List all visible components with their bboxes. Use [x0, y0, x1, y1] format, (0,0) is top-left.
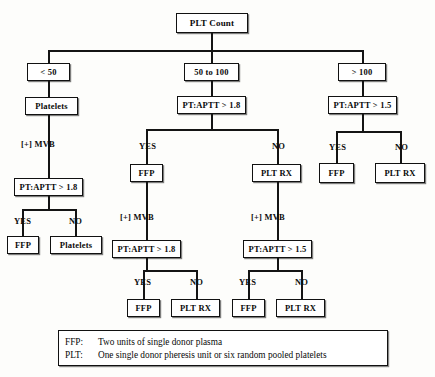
edge-label-left-yes: YES: [14, 217, 31, 226]
connector-mid-test-down: [211, 114, 213, 129]
connector-mid-no-subtest-down: [277, 258, 279, 270]
edge-label-left-mvb: [+] MVB: [21, 140, 55, 149]
node-mid-test-pt-aptt[interactable]: PT:APTT > 1.8: [177, 96, 246, 114]
edge-label-mid-no-sub-mvb: [+] MVB: [251, 213, 285, 222]
connector-root-bus: [48, 50, 363, 52]
legend-box: FFP: Two units of single donor plasma PL…: [58, 330, 388, 366]
edge-label-mid-no: NO: [272, 142, 285, 151]
connector-mid-test-bus: [146, 129, 277, 131]
node-right-yes-outcome-ffp[interactable]: FFP: [319, 163, 354, 183]
legend-key-plt: PLT:: [65, 349, 98, 362]
legend-text-ffp: Two units of single donor plasma: [98, 336, 222, 349]
node-right-test-pt-aptt[interactable]: PT:APTT > 1.5: [328, 96, 397, 114]
connector-mid-no-subtest-bus: [248, 270, 301, 272]
legend-key-ffp: FFP:: [65, 336, 98, 349]
connector-left-test-bus: [22, 209, 75, 211]
connector-mid-ffp-to-subtest: [146, 182, 148, 240]
legend-row-ffp: FFP: Two units of single donor plasma: [65, 336, 380, 349]
connector-bus-to-middle: [211, 50, 213, 63]
node-left-test-pt-aptt[interactable]: PT:APTT > 1.8: [14, 178, 83, 196]
connector-bus-to-left: [48, 50, 50, 63]
edge-label-left-no: NO: [69, 217, 82, 226]
connector-right-test-down: [362, 114, 364, 131]
edge-label-mid-yes-sub-mvb: [+] MVB: [120, 213, 154, 222]
legend-row-plt: PLT: One single donor pheresis unit or s…: [65, 349, 380, 362]
connector-right-test-bus: [336, 131, 400, 133]
node-mid-no-sub-yes-outcome-ffp[interactable]: FFP: [232, 299, 265, 317]
node-range-greater-than-100[interactable]: > 100: [338, 63, 386, 81]
node-mid-yes-sub-test[interactable]: PT:APTT > 1.8: [112, 240, 181, 258]
connector-left-test-down: [48, 196, 50, 209]
connector-mid-pltrx-to-subtest: [277, 182, 279, 240]
node-range-less-than-50[interactable]: < 50: [27, 63, 70, 81]
node-left-treatment-platelets[interactable]: Platelets: [25, 97, 78, 115]
connector-mid-range-to-test: [211, 81, 213, 96]
connector-right-100-to-test: [362, 81, 364, 96]
edge-label-mid-yes: YES: [139, 142, 156, 151]
node-mid-no-sub-no-outcome-plt-rx[interactable]: PLT RX: [276, 299, 325, 317]
edge-label-mid-no-sub-no: NO: [295, 278, 308, 287]
connector-root-down: [211, 33, 213, 50]
edge-label-right-no: NO: [395, 143, 408, 152]
node-right-no-outcome-plt-rx[interactable]: PLT RX: [375, 163, 425, 183]
decision-tree-diagram: PLT Count < 50 50 to 100 > 100 Platelets…: [0, 0, 435, 377]
connector-mid-subtest-bus: [143, 270, 196, 272]
node-mid-yes-sub-no-outcome-plt-rx[interactable]: PLT RX: [171, 299, 220, 317]
connector-bus-to-right: [362, 50, 364, 63]
connector-mid-subtest-down: [146, 258, 148, 270]
edge-label-right-yes: YES: [329, 143, 346, 152]
connector-left-50-to-platelets: [48, 81, 50, 97]
node-root-plt-count[interactable]: PLT Count: [176, 13, 248, 33]
legend-text-plt: One single donor pheresis unit or six ra…: [98, 349, 327, 362]
node-mid-no-sub-test[interactable]: PT:APTT > 1.5: [243, 240, 312, 258]
edge-label-mid-yes-sub-no: NO: [190, 278, 203, 287]
node-mid-yes-sub-yes-outcome-ffp[interactable]: FFP: [127, 299, 160, 317]
node-left-no-outcome-platelets[interactable]: Platelets: [50, 236, 102, 254]
node-mid-yes-outcome-ffp[interactable]: FFP: [130, 164, 163, 182]
node-mid-no-outcome-plt-rx[interactable]: PLT RX: [252, 164, 301, 182]
edge-label-mid-no-sub-yes: YES: [239, 278, 256, 287]
node-range-50-to-100[interactable]: 50 to 100: [184, 63, 239, 81]
node-left-yes-outcome-ffp[interactable]: FFP: [7, 236, 39, 254]
edge-label-mid-yes-sub-yes: YES: [134, 278, 151, 287]
